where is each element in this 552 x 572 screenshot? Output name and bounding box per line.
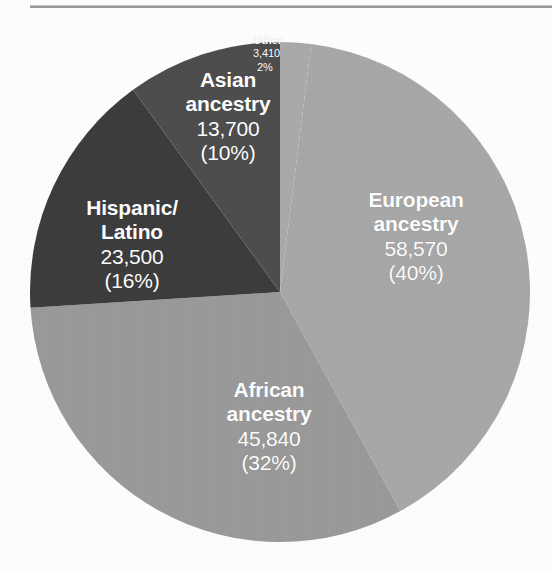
slice-name-african-line2: ancestry [182,402,356,426]
slice-value-other: 3,410 [253,47,311,60]
slice-name-hispanic-line2: Latino [42,220,222,244]
slice-name-african-line1: African [182,378,356,402]
slice-label-european: European ancestry 58,570 (40%) [332,188,500,285]
slice-value-hispanic: 23,500 [42,245,222,269]
slice-label-hispanic: Hispanic/ Latino 23,500 (16%) [42,196,222,293]
slice-percent-african: (32%) [182,451,356,475]
slice-name-hispanic-line1: Hispanic/ [42,196,222,220]
slice-value-asian: 13,700 [140,117,316,141]
slice-value-african: 45,840 [182,427,356,451]
slice-label-african: African ancestry 45,840 (32%) [182,378,356,475]
slice-name-european-line1: European [332,188,500,212]
slice-percent-other: 2% [253,61,311,74]
slice-name-asian-line2: ancestry [140,92,316,116]
slice-label-other: Other 3,410 2% [253,34,311,74]
slice-percent-hispanic: (16%) [42,269,222,293]
slice-percent-european: (40%) [332,261,500,285]
figure-root: European ancestry 58,570 (40%) African a… [0,0,552,572]
slice-label-asian: Asian ancestry 13,700 (10%) [140,68,316,165]
slice-value-european: 58,570 [332,237,500,261]
slice-name-european-line2: ancestry [332,212,500,236]
slice-name-other: Other [253,34,311,47]
pie-chart: European ancestry 58,570 (40%) African a… [0,0,552,572]
slice-percent-asian: (10%) [140,141,316,165]
